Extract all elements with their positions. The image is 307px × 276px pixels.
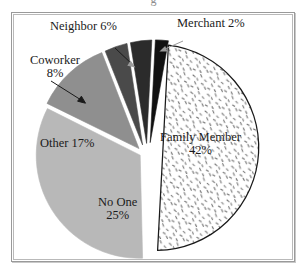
slice-label-coworker-line1: Coworker	[30, 54, 80, 67]
slice-label-neighbor: Neighbor 6%	[50, 20, 117, 33]
slice-label-merchant: Merchant 2%	[177, 17, 245, 30]
slice-label-other: Other 17%	[40, 137, 95, 150]
slice-label-other-line1: Other 17%	[40, 137, 95, 150]
slice-label-merchant-line1: Merchant 2%	[177, 17, 245, 30]
slice-label-family-member: Family Member 42%	[160, 131, 241, 158]
slice-label-family-member-line2: 42%	[160, 144, 241, 157]
cropped-title-sliver: g	[0, 0, 307, 7]
slice-label-coworker: Coworker 8%	[30, 54, 80, 81]
slice-label-no-one: No One 25%	[98, 196, 137, 223]
slice-label-no-one-line1: No One	[98, 196, 137, 209]
pie-chart-figure: g	[0, 0, 307, 276]
slice-label-family-member-line1: Family Member	[160, 131, 241, 144]
slice-label-no-one-line2: 25%	[98, 209, 137, 222]
slice-label-neighbor-line1: Neighbor 6%	[50, 20, 117, 33]
slice-label-coworker-line2: 8%	[30, 67, 80, 80]
